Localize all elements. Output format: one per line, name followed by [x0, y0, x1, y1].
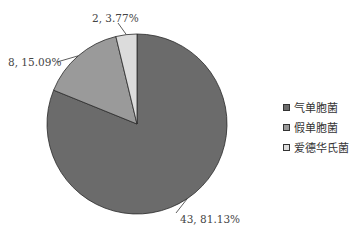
legend-item-pseudomonas: 假单胞菌: [283, 117, 349, 137]
legend-label: 气单胞菌: [294, 99, 338, 115]
legend-item-aeromonas: 气单胞菌: [283, 97, 349, 117]
legend-label: 爱德华氏菌: [294, 139, 349, 155]
legend-swatch-icon: [283, 124, 290, 131]
data-label-aeromonas: 43, 81.13%: [180, 213, 240, 225]
legend-swatch-icon: [283, 144, 290, 151]
pie-slices: [47, 34, 227, 214]
legend-swatch-icon: [283, 104, 290, 111]
legend-label: 假单胞菌: [294, 119, 338, 135]
legend: 气单胞菌 假单胞菌 爱德华氏菌: [283, 97, 349, 157]
data-label-pseudomonas: 8, 15.09%: [8, 56, 61, 68]
legend-item-edwardsiella: 爱德华氏菌: [283, 137, 349, 157]
leader-line: [118, 23, 126, 35]
data-label-edwardsiella: 2, 3.77%: [92, 12, 139, 24]
